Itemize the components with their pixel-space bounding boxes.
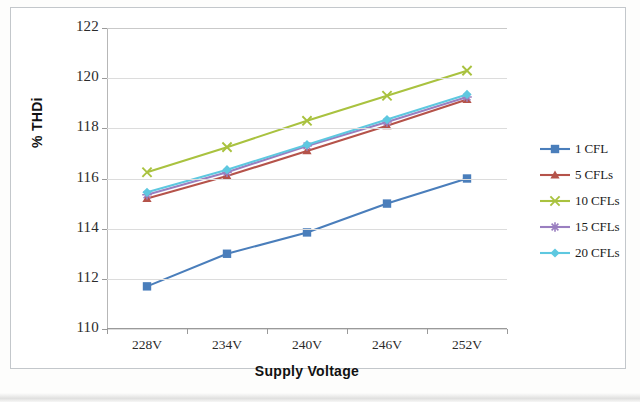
legend-swatch-icon — [540, 169, 570, 181]
legend-item-label: 15 CFLs — [575, 219, 619, 235]
legend-item-label: 10 CFLs — [575, 193, 619, 209]
legend-item-20-cfls[interactable]: 20 CFLs — [540, 240, 640, 266]
y-axis-tick — [102, 78, 107, 79]
x-axis-title: Supply Voltage — [107, 363, 507, 379]
gridline-112 — [107, 279, 507, 280]
data-point-marker — [223, 250, 231, 258]
data-point-marker — [550, 248, 559, 257]
x-axis-tick-labels: 228V234V240V246V252V — [107, 337, 507, 359]
data-point-marker — [551, 145, 559, 153]
gridline-110 — [107, 329, 507, 330]
gridline-118 — [107, 128, 507, 129]
x-axis-tick-label: 246V — [352, 337, 422, 353]
y-axis-tick — [102, 128, 107, 129]
y-axis-tick — [102, 28, 107, 29]
series-10-cfls — [142, 66, 471, 177]
y-axis-title: % THDi — [29, 97, 45, 148]
gridline-122 — [107, 28, 507, 29]
legend-item-label: 1 CFL — [575, 141, 608, 157]
y-axis-tick-label: 116 — [59, 169, 99, 186]
gridline-120 — [107, 78, 507, 79]
y-axis-tick-label: 112 — [59, 269, 99, 286]
scanned-page: % THDi 110112114116118120122 228V234V240… — [0, 0, 640, 402]
y-axis-tick-label: 120 — [59, 68, 99, 85]
data-point-marker — [550, 222, 560, 232]
gridline-114 — [107, 229, 507, 230]
legend-item-10-cfls[interactable]: 10 CFLs — [540, 188, 640, 214]
x-axis-tick-label: 228V — [112, 337, 182, 353]
legend-item-label: 5 CFLs — [575, 167, 613, 183]
chart-frame: % THDi 110112114116118120122 228V234V240… — [10, 7, 626, 369]
legend-item-15-cfls[interactable]: 15 CFLs — [540, 214, 640, 240]
y-axis-tick — [102, 179, 107, 180]
x-axis-tick — [107, 329, 108, 334]
x-axis-tick — [267, 329, 268, 334]
data-point-marker — [383, 199, 391, 207]
y-axis-tick-label: 110 — [59, 319, 99, 336]
x-axis-tick — [507, 329, 508, 334]
legend-swatch-icon — [540, 195, 570, 207]
gridline-116 — [107, 179, 507, 180]
legend-swatch-icon — [540, 247, 570, 259]
y-axis-tick-labels: 110112114116118120122 — [55, 28, 99, 329]
x-axis-tick-label: 234V — [192, 337, 262, 353]
y-axis-tick-label: 118 — [59, 118, 99, 135]
y-axis-tick — [102, 229, 107, 230]
x-axis-tick — [347, 329, 348, 334]
x-axis-tick-label: 240V — [272, 337, 342, 353]
legend-item-5-cfls[interactable]: 5 CFLs — [540, 162, 640, 188]
series-20-cfls — [142, 90, 471, 197]
x-axis-tick-label: 252V — [432, 337, 502, 353]
chart-legend: 1 CFL5 CFLs10 CFLs15 CFLs20 CFLs — [540, 136, 640, 266]
y-axis-tick-label: 114 — [59, 219, 99, 236]
plot-area — [107, 28, 507, 329]
y-axis-tick — [102, 279, 107, 280]
data-point-marker — [143, 282, 151, 290]
legend-item-label: 20 CFLs — [575, 245, 619, 261]
y-axis-tick-label: 122 — [59, 18, 99, 35]
series-1-cfl — [143, 174, 471, 290]
legend-swatch-icon — [540, 143, 570, 155]
x-axis-tick — [187, 329, 188, 334]
x-axis-tick — [427, 329, 428, 334]
legend-swatch-icon — [540, 221, 570, 233]
legend-item-1-cfl[interactable]: 1 CFL — [540, 136, 640, 162]
